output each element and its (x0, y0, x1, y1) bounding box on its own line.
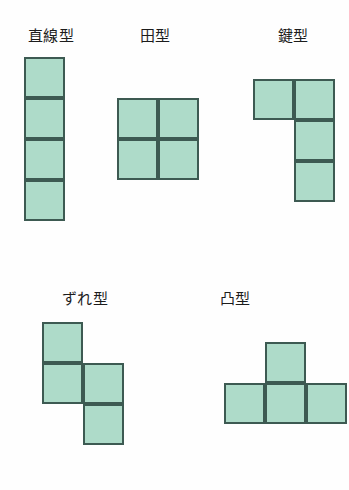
polyomino-cell (117, 98, 158, 139)
polyomino-cell (158, 139, 199, 180)
polyomino-cell (83, 404, 124, 445)
polyomino-cell (294, 161, 335, 202)
shape-label-key: 鍵型 (258, 27, 328, 45)
polyomino-cell (294, 79, 335, 120)
polyomino-cell (24, 98, 65, 139)
polyomino-cell (24, 139, 65, 180)
polyomino-cell (294, 120, 335, 161)
shape-label-offset: ずれ型 (42, 290, 128, 308)
polyomino-cell (42, 363, 83, 404)
shape-label-straight: 直線型 (6, 27, 96, 45)
polyomino-cell (83, 363, 124, 404)
polyomino-cell (117, 139, 158, 180)
polyomino-cell (253, 79, 294, 120)
polyomino-cell (42, 322, 83, 363)
polyomino-cell (306, 383, 347, 424)
shape-label-convex: 凸型 (200, 290, 270, 308)
polyomino-cell (265, 383, 306, 424)
polyomino-cell (158, 98, 199, 139)
polyomino-cell (24, 57, 65, 98)
polyomino-cell (265, 342, 306, 383)
polyomino-cell (24, 180, 65, 221)
figure-canvas: 直線型 田型 鍵型 ずれ型 (0, 0, 349, 490)
shape-label-square: 田型 (120, 27, 190, 45)
polyomino-cell (224, 383, 265, 424)
